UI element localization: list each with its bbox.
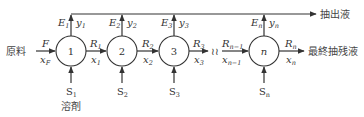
break-symbol: ≀≀: [211, 46, 219, 57]
stage-3-label: 3: [171, 46, 177, 57]
feed-composition-symbol: xF: [40, 54, 51, 67]
pre-n-raffinate-symbol: Rn−1: [221, 38, 243, 51]
stage-2-raffinate-symbol: R2: [141, 38, 154, 51]
stage-n: En yn n Sn Rn xn: [249, 15, 304, 99]
stage-n-y-symbol: yn: [268, 17, 279, 30]
stage-3-y-symbol: y3: [178, 17, 189, 30]
stage-1-solvent-symbol: S1: [66, 86, 77, 99]
stage-n-extract-symbol: En: [250, 17, 263, 30]
extract-label: 抽出液: [320, 8, 350, 20]
extraction-flow-diagram: 抽出液 原料 F xF E1 y1 1 S1 溶剤 R1 x1 E2 y2 2 …: [0, 0, 364, 117]
stage-n-solvent-symbol: Sn: [259, 86, 270, 99]
stage-1-y-symbol: y1: [75, 17, 86, 30]
final-raffinate-label: 最終抽残液: [308, 45, 358, 57]
stage-3-x-symbol: x3: [194, 54, 204, 67]
pre-n-x-symbol: xn−1: [222, 54, 241, 67]
stage-3-raffinate-symbol: R3: [192, 38, 205, 51]
stage-1-x-symbol: x1: [91, 54, 101, 67]
stage-1-raffinate-symbol: R1: [89, 38, 102, 51]
feed-stream: 原料 F xF: [6, 38, 55, 67]
feed-label: 原料: [6, 45, 26, 57]
stage-2-solvent-symbol: S2: [117, 86, 128, 99]
stage-2-label: 2: [119, 46, 125, 57]
stage-1: E1 y1 1 S1 溶剤 R1 x1: [56, 15, 106, 112]
solvent-label: 溶剤: [61, 100, 81, 112]
pre-n-stream: Rn−1 xn−1: [221, 38, 248, 67]
stage-2: E2 y2 2 S2 R2 x2: [107, 15, 158, 99]
feed-flow-symbol: F: [41, 38, 50, 49]
stage-2-x-symbol: x2: [143, 54, 153, 67]
stage-2-y-symbol: y2: [126, 17, 137, 30]
stage-1-extract-symbol: E1: [57, 17, 69, 30]
stage-3: E3 y3 3 S3 R3 x3: [159, 15, 208, 99]
stage-1-label: 1: [68, 46, 74, 57]
stage-3-extract-symbol: E3: [160, 17, 172, 30]
stage-n-x-symbol: xn: [286, 54, 296, 67]
stage-3-solvent-symbol: S3: [169, 86, 180, 99]
stage-n-raffinate-symbol: Rn: [284, 38, 297, 51]
stage-n-label: n: [261, 46, 267, 57]
stage-2-extract-symbol: E2: [108, 17, 120, 30]
